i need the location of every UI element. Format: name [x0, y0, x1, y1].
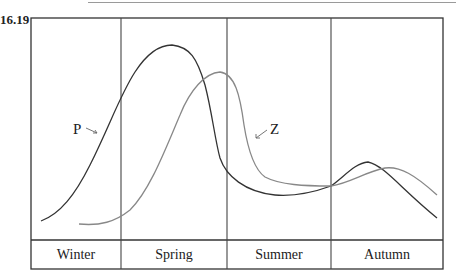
series-p-label: P	[73, 121, 81, 137]
z-arrow-icon	[256, 130, 267, 138]
series-z-label: Z	[270, 121, 279, 137]
season-label-spring: Spring	[121, 242, 227, 268]
season-label-summer: Summer	[227, 242, 331, 268]
series-z-line	[79, 72, 437, 224]
season-label-autumn: Autumn	[331, 242, 443, 268]
series-p-line	[41, 45, 437, 221]
chart-frame	[31, 18, 443, 269]
chart: P Z	[0, 0, 456, 277]
season-label-winter: Winter	[31, 242, 121, 268]
